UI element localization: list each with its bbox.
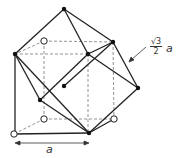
filled-atoms xyxy=(13,7,140,135)
visible-edges xyxy=(14,9,138,134)
fraction-denominator: 2 xyxy=(150,47,162,56)
edge-length-label: a xyxy=(46,143,53,156)
diagonal-fraction: √3 2 xyxy=(150,37,162,56)
crystal-diagram xyxy=(0,0,183,158)
diagonal-var-label: a xyxy=(166,42,173,55)
fraction-numerator: √3 xyxy=(150,37,162,47)
